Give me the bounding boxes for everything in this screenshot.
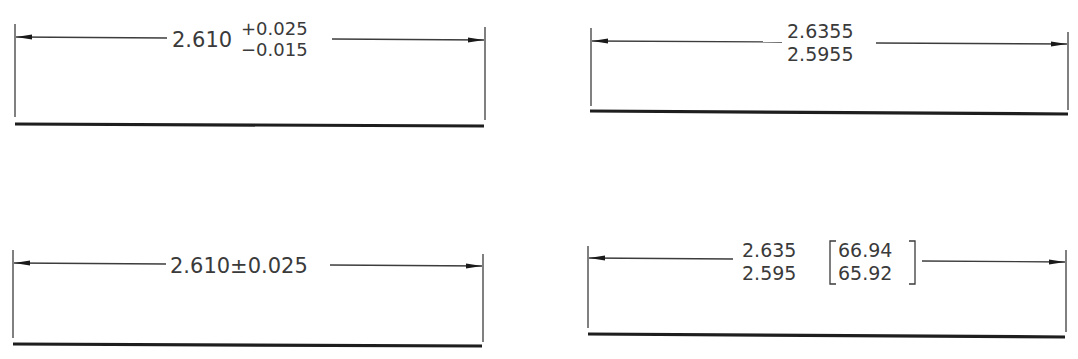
dimension-line-left — [589, 258, 733, 259]
dimension-line-left — [592, 41, 782, 42]
upper-limit: 2.6355 — [787, 20, 853, 42]
dimension-line-right — [876, 43, 1067, 44]
arrowhead-right-icon — [1049, 260, 1065, 265]
arrowhead-left-icon — [14, 261, 30, 266]
upper-tolerance: +0.025 — [241, 18, 308, 39]
panel-equal-tolerance: 2.610±0.025 — [13, 250, 483, 346]
dimension-line-right — [922, 261, 1065, 262]
dimension-line-left — [14, 263, 166, 264]
bracket-open-icon — [830, 241, 836, 284]
dimension-line-right — [332, 39, 484, 40]
part-edge-line — [15, 124, 484, 126]
dimension-diagram: 2.610 +0.025 −0.015 2.6355 2.5955 2.610±… — [0, 0, 1078, 359]
panel-dual-dimension: 2.635 2.595 66.94 65.92 — [588, 239, 1066, 337]
bracket-close-icon — [909, 241, 915, 284]
arrowhead-right-icon — [466, 264, 482, 269]
lower-limit-inch: 2.595 — [742, 262, 796, 284]
arrowhead-left-icon — [592, 39, 608, 44]
lower-tolerance: −0.015 — [241, 39, 308, 60]
arrowhead-left-icon — [589, 256, 605, 261]
panel-limit-dimension: 2.6355 2.5955 — [590, 20, 1068, 114]
upper-limit-metric: 66.94 — [838, 239, 892, 261]
panel-unequal-tolerance: 2.610 +0.025 −0.015 — [15, 18, 485, 126]
upper-limit-inch: 2.635 — [742, 239, 796, 261]
arrowhead-left-icon — [16, 35, 32, 40]
part-edge-line — [588, 334, 1065, 337]
lower-limit-metric: 65.92 — [838, 262, 892, 284]
tolerance-value: 2.610±0.025 — [170, 254, 308, 278]
arrowhead-right-icon — [1051, 42, 1067, 47]
dimension-line-right — [330, 265, 482, 266]
nominal-value: 2.610 — [172, 28, 232, 52]
dimension-line-left — [16, 37, 167, 38]
part-edge-line — [590, 111, 1068, 114]
part-edge-line — [13, 344, 482, 346]
arrowhead-right-icon — [468, 38, 484, 43]
lower-limit: 2.5955 — [787, 43, 853, 65]
